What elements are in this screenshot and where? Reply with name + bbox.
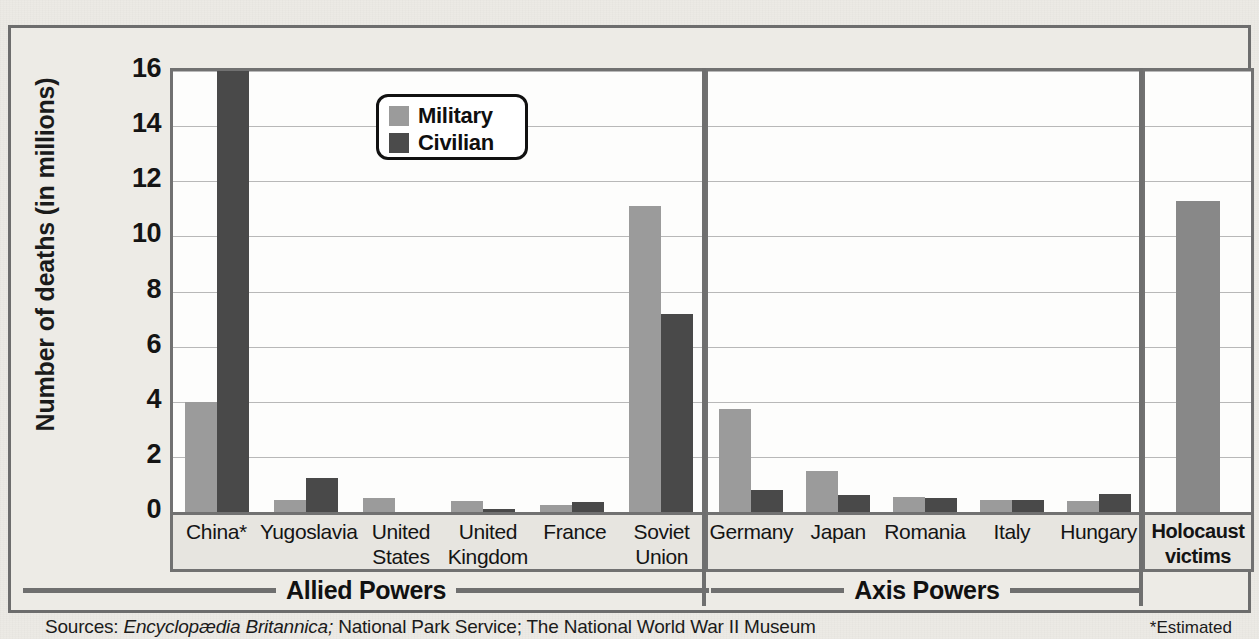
bar-military [185, 402, 217, 512]
bar-civilian [483, 509, 515, 512]
category-label: Yugoslavia [260, 515, 358, 569]
bar-pair [795, 71, 882, 512]
bar-military [980, 500, 1012, 512]
bar-pair [968, 71, 1055, 512]
legend-swatch-civilian-icon [389, 133, 409, 153]
bracket-line-left [23, 588, 276, 593]
y-tick-16: 16 [107, 53, 161, 84]
category-labels-allied: China*YugoslaviaUnitedStatesUnitedKingdo… [170, 515, 708, 572]
y-axis-tick-labels: 1614121086420 [107, 66, 161, 526]
bar-civilian [1099, 494, 1131, 512]
bar-military [893, 497, 925, 512]
bar-pair [173, 71, 262, 512]
chart-frame: Number of deaths (in millions) 161412108… [8, 25, 1251, 613]
legend-label-civilian: Civilian [418, 130, 494, 156]
legend-item-military: Military [389, 102, 525, 129]
bracket-line-right [1010, 588, 1143, 593]
bar-pair [708, 71, 795, 512]
sources-prefix: Sources: [45, 616, 123, 637]
bracket-line-right [456, 588, 709, 593]
y-tick-10: 10 [107, 218, 161, 249]
bar-civilian [838, 495, 870, 512]
category-label: Japan [795, 515, 882, 569]
bar-military [540, 505, 572, 512]
bar-group-holocaust [1145, 71, 1251, 512]
bar-pair [1055, 71, 1142, 512]
sources-rest: National Park Service; The National Worl… [333, 616, 816, 637]
bar-pair [882, 71, 969, 512]
bar-pair [262, 71, 351, 512]
category-label: Holocaustvictims [1145, 515, 1251, 569]
y-tick-2: 2 [107, 438, 161, 469]
sources-note: Sources: Encyclopædia Britannica; Nation… [45, 616, 816, 638]
sources-italic-title: Encyclopædia Britannica; [123, 616, 333, 637]
bar-holocaust-victims [1176, 201, 1220, 512]
bar-military [806, 471, 838, 512]
bar-civilian [1012, 500, 1044, 512]
category-label: Hungary [1055, 515, 1142, 569]
bar-military [451, 501, 483, 512]
bracket-line-left [711, 588, 844, 593]
bar-military [719, 409, 751, 512]
bar-military [629, 206, 661, 512]
panel-divider-allied-axis [702, 68, 706, 606]
category-label: China* [173, 515, 260, 569]
group-bracket-allied: Allied Powers [23, 574, 709, 606]
category-label: UnitedStates [357, 515, 444, 569]
plot-panel-axis [705, 68, 1145, 515]
y-tick-4: 4 [107, 383, 161, 414]
bar-civilian [751, 490, 783, 512]
category-label: France [531, 515, 618, 569]
y-tick-14: 14 [107, 108, 161, 139]
bar-civilian [306, 478, 338, 512]
bar-military [363, 498, 395, 512]
legend-swatch-military-icon [389, 106, 409, 126]
bar-civilian [661, 314, 693, 512]
bracket-label-axis: Axis Powers [844, 576, 1009, 605]
y-tick-12: 12 [107, 163, 161, 194]
category-label: Romania [882, 515, 969, 569]
category-labels-holocaust: Holocaustvictims [1142, 515, 1254, 572]
y-tick-8: 8 [107, 273, 161, 304]
legend-label-military: Military [418, 103, 493, 129]
panel-divider-axis-holocaust [1139, 68, 1143, 606]
bar-pair [528, 71, 617, 512]
group-bracket-axis: Axis Powers [711, 574, 1143, 606]
bar-group-axis [708, 71, 1142, 512]
y-tick-0: 0 [107, 494, 161, 525]
chart-legend: Military Civilian [376, 94, 528, 160]
bar-pair [616, 71, 705, 512]
estimated-footnote: *Estimated [1150, 618, 1232, 638]
category-labels-axis: GermanyJapanRomaniaItalyHungary [705, 515, 1145, 572]
legend-item-civilian: Civilian [389, 129, 525, 156]
bar-civilian [925, 498, 957, 512]
category-label: Italy [968, 515, 1055, 569]
bar-civilian [217, 68, 249, 512]
bar-military [1067, 501, 1099, 512]
y-tick-6: 6 [107, 328, 161, 359]
bar-pair [1145, 71, 1251, 512]
y-axis-title: Number of deaths (in millions) [31, 45, 60, 465]
bar-military [274, 500, 306, 512]
bar-civilian [572, 502, 604, 512]
bracket-label-allied: Allied Powers [276, 576, 456, 605]
category-label: Germany [708, 515, 795, 569]
plot-panel-holocaust [1142, 68, 1254, 515]
chart-page: Number of deaths (in millions) 161412108… [0, 0, 1259, 639]
category-label: SovietUnion [618, 515, 705, 569]
category-label: UnitedKingdom [444, 515, 531, 569]
